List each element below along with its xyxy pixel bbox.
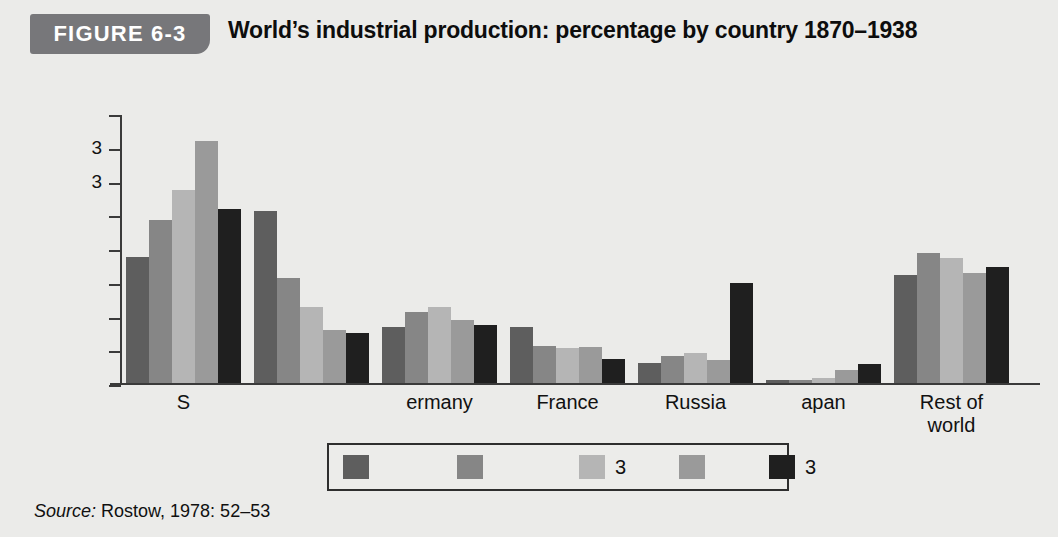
bar [707, 360, 730, 383]
chart-legend: 33 [327, 443, 789, 491]
bar [858, 364, 881, 383]
x-axis-category-label: Rest of world [894, 391, 1009, 437]
bar [963, 273, 986, 383]
bar-groups: SermanyFranceRussiaapanRest of world [0, 95, 1058, 385]
bar [661, 356, 684, 383]
bar [510, 327, 533, 383]
y-axis-tick [109, 385, 121, 387]
bar [323, 330, 346, 383]
bar [556, 348, 579, 383]
bar [917, 253, 940, 383]
legend-label: 3 [615, 456, 629, 479]
bar [730, 283, 753, 383]
legend-swatch [679, 455, 705, 479]
legend-item[interactable] [343, 445, 393, 489]
bar [451, 320, 474, 383]
bar [684, 353, 707, 383]
bar [894, 275, 917, 383]
bar [474, 325, 497, 383]
bar-group [126, 113, 241, 383]
x-axis-category-label: S [126, 391, 241, 414]
figure-number-badge: FIGURE 6-3 [30, 14, 210, 54]
legend-item[interactable] [457, 445, 507, 489]
x-axis-category-label: ermany [382, 391, 497, 414]
bar [940, 258, 963, 383]
figure-container: FIGURE 6-3 World’s industrial production… [0, 0, 1058, 537]
figure-title: World’s industrial production: percentag… [228, 17, 917, 44]
legend-item[interactable]: 3 [769, 445, 819, 489]
x-axis-category-label: apan [766, 391, 881, 414]
bar [382, 327, 405, 383]
bar [812, 378, 835, 383]
plot-area: 33 SermanyFranceRussiaapanRest of world [0, 95, 1058, 405]
bar [835, 370, 858, 384]
bar [638, 363, 661, 383]
figure-header: FIGURE 6-3 World’s industrial production… [0, 14, 1058, 62]
bar [579, 347, 602, 383]
legend-item[interactable]: 3 [579, 445, 629, 489]
bar [986, 267, 1009, 383]
bar [405, 312, 428, 383]
bar-group [638, 113, 753, 383]
legend-swatch [343, 455, 369, 479]
bar [149, 220, 172, 383]
source-label: Source: [34, 501, 96, 521]
bar [766, 380, 789, 383]
bar [346, 333, 369, 383]
x-axis-category-label: France [510, 391, 625, 414]
bar [172, 190, 195, 383]
bar [126, 257, 149, 383]
bar [300, 307, 323, 383]
legend-swatch [769, 455, 795, 479]
legend-swatch [457, 455, 483, 479]
bar-group [382, 113, 497, 383]
source-note: Source: Rostow, 1978: 52–53 [34, 501, 270, 522]
legend-label: 3 [805, 456, 819, 479]
bar-group [766, 113, 881, 383]
bar [428, 307, 451, 383]
bar-group [254, 113, 369, 383]
source-citation: Rostow, 1978: 52–53 [96, 501, 270, 521]
legend-swatch [579, 455, 605, 479]
bar [533, 346, 556, 383]
x-axis-category-label: Russia [638, 391, 753, 414]
bar [789, 380, 812, 383]
bar-group [510, 113, 625, 383]
bar-group [894, 113, 1009, 383]
bar [602, 359, 625, 383]
bar [254, 211, 277, 383]
bar [218, 209, 241, 383]
bar [277, 278, 300, 383]
figure-number-label: FIGURE 6-3 [53, 21, 186, 47]
legend-item[interactable] [679, 445, 729, 489]
bar [195, 141, 218, 383]
